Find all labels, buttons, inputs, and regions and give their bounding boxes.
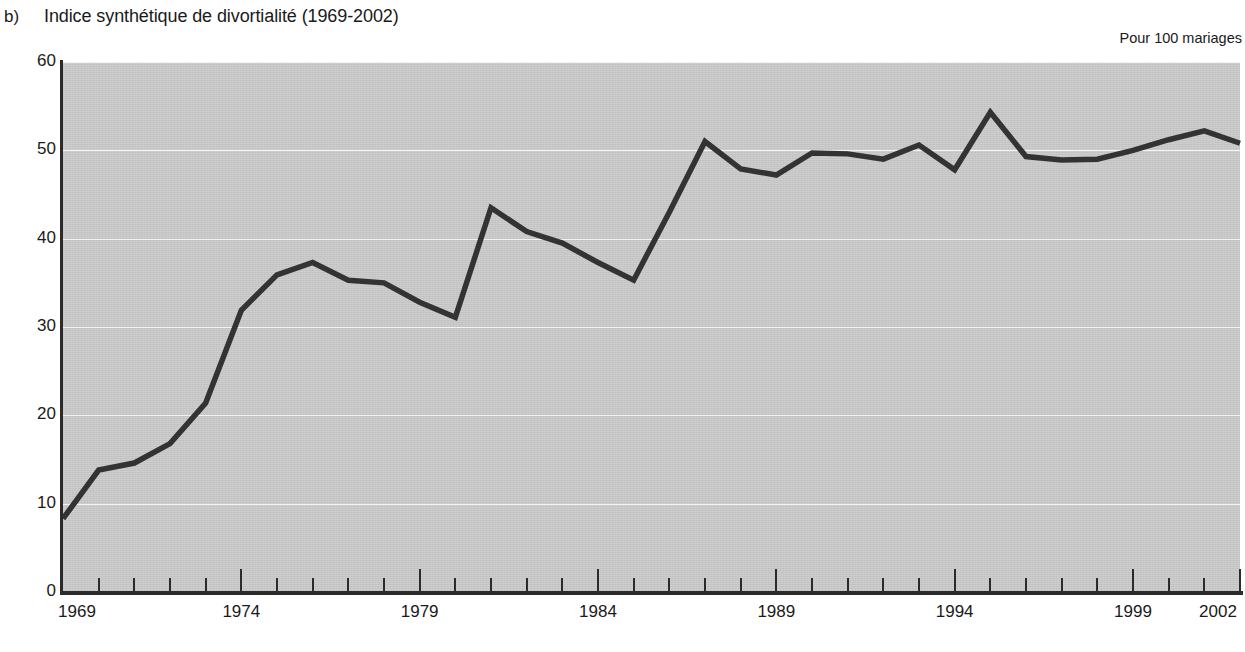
x-tick-1986 bbox=[668, 578, 670, 591]
x-tick-1971 bbox=[133, 578, 135, 591]
x-axis-line bbox=[60, 591, 1243, 595]
x-tick-1995 bbox=[989, 578, 991, 591]
x-tick-1991 bbox=[847, 578, 849, 591]
y-tick-label-20: 20 bbox=[16, 404, 56, 424]
x-tick-label-1974: 1974 bbox=[222, 602, 260, 622]
series-line-chart bbox=[63, 62, 1240, 592]
series-polyline bbox=[63, 112, 1240, 518]
x-tick-1987 bbox=[704, 578, 706, 591]
x-tick-1997 bbox=[1061, 578, 1063, 591]
x-tick-2002 bbox=[1239, 569, 1241, 591]
unit-label: Pour 100 mariages bbox=[1119, 30, 1242, 46]
x-tick-1999 bbox=[1132, 569, 1134, 591]
x-tick-label-1989: 1989 bbox=[757, 602, 795, 622]
x-tick-1975 bbox=[276, 578, 278, 591]
x-tick-label-1984: 1984 bbox=[579, 602, 617, 622]
x-tick-1988 bbox=[740, 578, 742, 591]
x-tick-label-2002: 2002 bbox=[1199, 602, 1237, 622]
panel-letter: b) bbox=[4, 7, 19, 27]
x-tick-label-1969: 1969 bbox=[58, 602, 96, 622]
x-tick-label-1979: 1979 bbox=[401, 602, 439, 622]
y-tick-label-30: 30 bbox=[16, 316, 56, 336]
x-tick-1972 bbox=[169, 578, 171, 591]
figure-title: Indice synthétique de divortialité (1969… bbox=[44, 6, 399, 27]
x-tick-1970 bbox=[98, 578, 100, 591]
x-tick-1998 bbox=[1096, 578, 1098, 591]
x-tick-1996 bbox=[1025, 578, 1027, 591]
x-tick-1993 bbox=[918, 578, 920, 591]
x-tick-1985 bbox=[633, 578, 635, 591]
x-tick-1989 bbox=[775, 569, 777, 591]
y-axis-line bbox=[60, 60, 63, 594]
x-tick-1979 bbox=[419, 569, 421, 591]
x-tick-1977 bbox=[347, 578, 349, 591]
x-tick-1976 bbox=[312, 578, 314, 591]
y-tick-label-60: 60 bbox=[16, 51, 56, 71]
y-tick-label-0: 0 bbox=[16, 581, 56, 601]
x-tick-1982 bbox=[526, 578, 528, 591]
x-tick-label-1994: 1994 bbox=[936, 602, 974, 622]
x-tick-2000 bbox=[1168, 578, 1170, 591]
plot-area bbox=[63, 62, 1240, 592]
x-tick-1974 bbox=[240, 569, 242, 591]
y-tick-label-10: 10 bbox=[16, 493, 56, 513]
y-tick-label-50: 50 bbox=[16, 139, 56, 159]
x-tick-label-1999: 1999 bbox=[1114, 602, 1152, 622]
x-tick-2001 bbox=[1203, 578, 1205, 591]
x-tick-1978 bbox=[383, 578, 385, 591]
y-tick-label-40: 40 bbox=[16, 228, 56, 248]
x-tick-1983 bbox=[561, 578, 563, 591]
x-tick-1984 bbox=[597, 569, 599, 591]
x-tick-1990 bbox=[811, 578, 813, 591]
figure-header: b) Indice synthétique de divortialité (1… bbox=[0, 0, 1245, 56]
x-tick-1994 bbox=[954, 569, 956, 591]
x-tick-1981 bbox=[490, 578, 492, 591]
x-tick-1980 bbox=[454, 578, 456, 591]
x-tick-1973 bbox=[205, 578, 207, 591]
x-tick-1992 bbox=[882, 578, 884, 591]
